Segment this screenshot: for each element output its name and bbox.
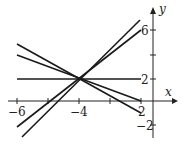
y-axis-label: y [158, 2, 166, 16]
x-tick-label-m4: −4 [70, 105, 88, 119]
x-tick-label-2: 2 [138, 105, 146, 119]
chart: y x −6 −4 2 6 2 −2 [0, 0, 188, 155]
y-tick-label-2: 2 [141, 73, 149, 87]
x-tick-label-m6: −6 [8, 105, 26, 119]
y-tick-label-6: 6 [141, 24, 149, 38]
x-axis-label: x [165, 85, 172, 99]
y-axis-arrow-icon [150, 7, 156, 14]
lines [17, 20, 141, 137]
x-axis-arrow-icon [172, 98, 178, 104]
y-tick-label-m2: −2 [136, 119, 154, 133]
